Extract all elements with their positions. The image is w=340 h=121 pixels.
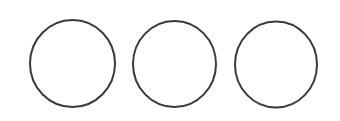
three-circles-figure <box>0 0 340 121</box>
drawing-canvas <box>0 0 340 121</box>
canvas-background <box>0 0 340 121</box>
